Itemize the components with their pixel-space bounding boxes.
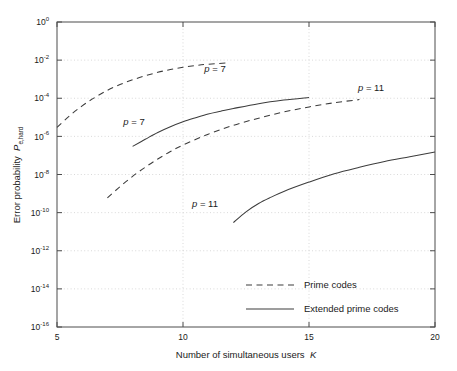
legend-label: Prime codes [304, 279, 357, 290]
x-tick-label: 20 [430, 332, 440, 342]
annot-p7-extended: p = 7 [122, 116, 144, 127]
plot-background [0, 0, 457, 371]
semilog-plot: 10010-210-410-610-810-1010-1210-1410-16 … [0, 0, 457, 371]
x-axis-title: Number of simultaneous users K [176, 349, 317, 360]
annot-p11-prime: p = 11 [357, 82, 384, 93]
x-tick-label: 10 [178, 332, 188, 342]
x-axis-label: Number of simultaneous users K [176, 349, 317, 360]
annot-p7-prime: p = 7 [203, 63, 225, 74]
figure-canvas: 10010-210-410-610-810-1010-1210-1410-16 … [0, 0, 457, 371]
x-tick-label: 5 [55, 332, 60, 342]
legend-label: Extended prime codes [304, 303, 399, 314]
x-tick-label: 15 [304, 332, 314, 342]
annot-p11-extended: p = 11 [191, 198, 218, 209]
